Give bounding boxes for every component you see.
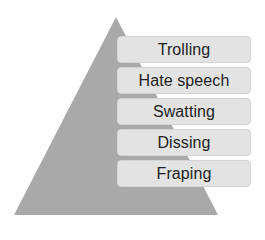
pyramid-levels: Trolling Hate speech Swatting Dissing Fr… [117,36,251,191]
level-trolling: Trolling [117,36,251,63]
level-swatting: Swatting [117,98,251,125]
level-fraping: Fraping [117,160,251,187]
level-hate-speech: Hate speech [117,67,251,94]
level-dissing: Dissing [117,129,251,156]
